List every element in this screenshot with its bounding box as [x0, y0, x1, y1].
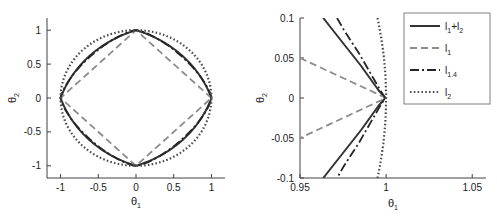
- x-tick-label: -1: [56, 182, 65, 193]
- svg-text:θ1: θ1: [388, 197, 398, 211]
- left-tick-labels: -1-0.500.51-1-0.500.51: [24, 25, 215, 193]
- svg-text:θ2: θ2: [6, 93, 20, 103]
- series-l₁.₄: [337, 18, 385, 178]
- left-plot-area: -1-0.500.51-1-0.500.51 θ1 θ2: [0, 0, 248, 221]
- series-l₁+l₂: [323, 18, 385, 178]
- left-panel: -1-0.500.51-1-0.500.51 θ1 θ2: [0, 0, 248, 221]
- right-curves: [300, 18, 386, 178]
- y-tick-label: -0.05: [271, 133, 294, 144]
- right-yaxis-label: θ2: [254, 93, 268, 103]
- x-tick-label: 1: [383, 182, 389, 193]
- left-curves: [61, 30, 212, 166]
- x-tick-label: -0.5: [90, 182, 108, 193]
- x-tick-label: 0.95: [290, 182, 310, 193]
- x-tick-label: 0.5: [167, 182, 181, 193]
- right-plot-area: 0.9511.05-0.1-0.0500.050.1 θ1 θ2 l1+l2l1…: [248, 0, 497, 221]
- left-xaxis-label: θ1: [131, 195, 141, 209]
- y-tick-label: 0.05: [275, 53, 295, 64]
- x-tick-label: 1.05: [462, 182, 482, 193]
- series-l₂: [61, 30, 212, 166]
- y-tick-label: 0: [288, 93, 294, 104]
- left-axis-ticks: [47, 30, 211, 178]
- y-tick-label: 0.1: [280, 13, 294, 24]
- svg-text:θ2: θ2: [254, 93, 268, 103]
- svg-text:θ1: θ1: [131, 195, 141, 209]
- y-tick-label: 0.5: [27, 59, 41, 70]
- left-yaxis-label: θ2: [6, 93, 20, 103]
- right-xaxis-label: θ1: [388, 197, 398, 211]
- right-panel: 0.9511.05-0.1-0.0500.050.1 θ1 θ2 l1+l2l1…: [248, 0, 497, 221]
- series-l₁: [300, 58, 386, 138]
- legend-box: l1+l2l1l1.4l2: [404, 13, 490, 104]
- x-tick-label: 1: [209, 182, 215, 193]
- y-tick-label: 0: [35, 93, 41, 104]
- y-tick-label: 1: [35, 25, 41, 36]
- y-tick-label: -1: [32, 160, 41, 171]
- figure-root: -1-0.500.51-1-0.500.51 θ1 θ2 0.9511.05-0…: [0, 0, 497, 221]
- y-tick-label: -0.1: [277, 173, 295, 184]
- x-tick-label: 0: [133, 182, 139, 193]
- y-tick-label: -0.5: [24, 126, 42, 137]
